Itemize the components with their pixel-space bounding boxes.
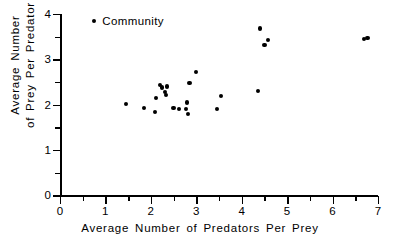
- x-tick-label-2: 2: [148, 205, 155, 217]
- y-axis-label-line-1: Average Number: [8, 0, 23, 145]
- data-point: [194, 70, 198, 74]
- x-tick-4: [242, 196, 243, 204]
- data-point: [256, 89, 260, 93]
- data-point: [165, 84, 169, 88]
- x-tick-7: [378, 196, 379, 204]
- data-point: [177, 107, 181, 111]
- y-axis-label: Average Number of Prey Per Predator: [8, 0, 38, 145]
- y-tick-label-3: 3: [44, 53, 51, 65]
- x-minor-tick: [355, 196, 356, 201]
- y-tick-label-1: 1: [44, 144, 51, 156]
- y-tick-label-4: 4: [44, 8, 51, 20]
- x-tick-0: [60, 196, 61, 204]
- scatter-plot-figure: 01234567 01234 Average Number of Predato…: [0, 0, 400, 245]
- data-point: [164, 93, 168, 97]
- data-point: [187, 81, 191, 85]
- plot-area: [60, 14, 378, 196]
- x-tick-3: [196, 196, 197, 204]
- data-point: [262, 43, 266, 47]
- x-tick-label-3: 3: [193, 205, 200, 217]
- data-point: [171, 106, 175, 110]
- data-point: [184, 107, 188, 111]
- data-point: [124, 102, 128, 106]
- data-point: [185, 100, 189, 104]
- x-minor-tick: [83, 196, 84, 201]
- x-minor-tick: [219, 196, 220, 201]
- y-axis-label-line-2: of Prey Per Predator: [23, 0, 38, 145]
- data-point: [266, 38, 270, 42]
- y-minor-tick: [55, 37, 60, 38]
- x-minor-tick: [128, 196, 129, 201]
- x-tick-5: [287, 196, 288, 204]
- y-tick-label-2: 2: [44, 99, 51, 111]
- x-tick-label-6: 6: [329, 205, 336, 217]
- x-tick-1: [105, 196, 106, 204]
- y-minor-tick: [55, 127, 60, 128]
- y-tick-label-0: 0: [44, 189, 51, 201]
- data-point: [160, 85, 164, 89]
- x-tick-label-5: 5: [284, 205, 291, 217]
- data-point: [219, 94, 223, 98]
- data-point: [258, 26, 262, 30]
- data-point: [153, 110, 157, 114]
- data-point: [365, 36, 369, 40]
- x-tick-label-1: 1: [102, 205, 109, 217]
- data-point: [186, 112, 190, 116]
- x-minor-tick: [174, 196, 175, 201]
- data-point: [154, 96, 158, 100]
- y-minor-tick: [55, 173, 60, 174]
- x-tick-2: [151, 196, 152, 204]
- x-tick-6: [333, 196, 334, 204]
- x-tick-label-7: 7: [375, 205, 382, 217]
- x-minor-tick: [264, 196, 265, 201]
- x-tick-label-4: 4: [238, 205, 245, 217]
- x-axis-label: Average Number of Predators Per Prey: [0, 222, 400, 234]
- y-minor-tick: [55, 82, 60, 83]
- x-minor-tick: [310, 196, 311, 201]
- x-tick-label-0: 0: [57, 205, 64, 217]
- data-point: [215, 107, 219, 111]
- data-point: [142, 106, 146, 110]
